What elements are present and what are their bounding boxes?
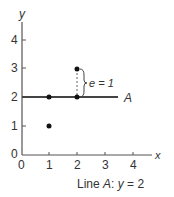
y-axis-label: y [19,8,25,20]
caption-eq: = 2 [124,177,144,191]
brace-icon [80,69,87,97]
caption-var: A [103,177,111,191]
x-tick-label: 0 [18,159,25,171]
error-label-text: e = 1 [89,77,114,89]
data-point [75,95,80,100]
y-tick-label: 3 [11,62,18,74]
x-tick-label: 2 [74,159,81,171]
error-label: e = 1 [89,78,114,89]
x-tick-label: 3 [102,159,109,171]
y-tick-label: 1 [11,120,18,132]
plot-canvas [0,0,174,197]
caption: Line A: y = 2 [77,178,144,190]
data-point [75,67,80,72]
x-tick-label: 1 [46,159,53,171]
caption-prefix: Line [77,177,103,191]
y-tick-label: 0 [11,148,18,160]
data-point [47,124,52,129]
x-tick-label: 4 [130,159,137,171]
x-axis-label: x [155,150,161,161]
data-point [47,95,52,100]
line-a-label: A [124,92,132,104]
y-tick-label: 4 [11,34,18,46]
y-tick-label: 2 [11,91,18,103]
caption-colon: : [111,177,118,191]
